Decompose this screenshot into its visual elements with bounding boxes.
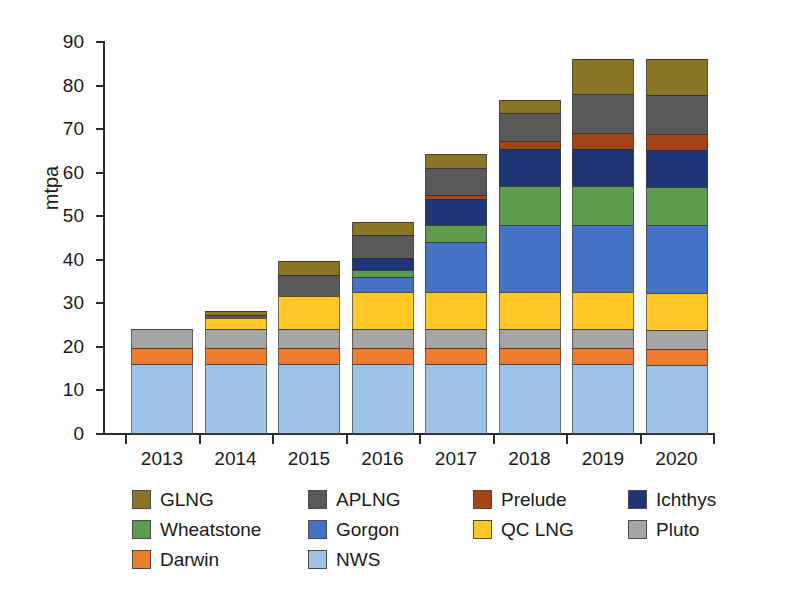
y-tick-20 [96,346,104,348]
legend-swatch-icon [132,550,151,569]
legend-label: NWS [336,550,380,569]
legend-swatch-icon [308,520,327,539]
legend-swatch-icon [628,520,647,539]
bar-segment-2017-wheatstone [425,225,487,242]
legend-swatch-icon [473,490,492,509]
y-tick-0 [96,433,104,435]
bar-2017 [425,42,487,434]
y-tick-label-60: 60 [38,163,84,182]
y-tick-10 [96,389,104,391]
x-tick-label-2020: 2020 [632,448,722,470]
bar-segment-2020-aplng [646,95,708,134]
bar-segment-2018-aplng [499,113,561,140]
bar-segment-2019-pluto [572,329,634,348]
bar-2019 [572,42,634,434]
bar-segment-2019-aplng [572,94,634,133]
legend-swatch-icon [308,490,327,509]
y-tick-label-50: 50 [38,206,84,225]
bar-segment-2018-prelude [499,141,561,149]
bar-segment-2018-glng [499,100,561,114]
legend-item-aplng[interactable]: APLNG [308,490,473,509]
y-tick-50 [96,215,104,217]
y-tick-label-70: 70 [38,119,84,138]
bar-segment-2020-wheatstone [646,187,708,226]
legend-item-glng[interactable]: GLNG [132,490,308,509]
legend-item-darwin[interactable]: Darwin [132,550,308,569]
bar-segment-2013-nws [131,364,193,434]
legend-item-wheatstone[interactable]: Wheatstone [132,520,308,539]
bar-segment-2020-gorgon [646,225,708,293]
y-tick-label-90: 90 [38,32,84,51]
legend-item-prelude[interactable]: Prelude [473,490,628,509]
bar-segment-2016-pluto [352,329,414,348]
legend-item-qc-lng[interactable]: QC LNG [473,520,628,539]
bar-2015 [278,42,340,434]
bar-segment-2016-glng [352,222,414,235]
bar-2016 [352,42,414,434]
bar-segment-2017-prelude [425,195,487,198]
legend-item-nws[interactable]: NWS [308,550,473,569]
chart-legend: GLNGAPLNGPreludeIchthysWheatstoneGorgonQ… [132,484,732,576]
bar-segment-2019-qc-lng [572,292,634,329]
legend-label: Prelude [501,490,567,509]
bar-segment-2014-glng [205,311,267,315]
x-tick-2019 [566,435,568,444]
legend-item-gorgon[interactable]: Gorgon [308,520,473,539]
y-tick-90 [96,41,104,43]
legend-label: Darwin [160,550,219,569]
plot-area [104,42,714,434]
bar-segment-2019-ichthys [572,149,634,186]
bar-segment-2019-nws [572,364,634,434]
y-axis-title: mtpa [41,133,61,243]
bar-segment-2013-pluto [131,329,193,348]
y-tick-label-40: 40 [38,250,84,269]
bar-segment-2016-wheatstone [352,270,414,277]
bar-segment-2016-nws [352,364,414,434]
legend-item-ichthys[interactable]: Ichthys [628,490,748,509]
legend-label: Ichthys [656,490,716,509]
bar-segment-2014-nws [205,364,267,434]
bar-segment-2018-wheatstone [499,186,561,225]
bar-segment-2017-ichthys [425,199,487,225]
bar-segment-2017-gorgon [425,242,487,292]
bar-2013 [131,42,193,434]
bar-segment-2016-gorgon [352,277,414,292]
bar-segment-2019-gorgon [572,225,634,293]
y-tick-40 [96,259,104,261]
bar-segment-2017-nws [425,364,487,434]
bar-segment-2014-darwin [205,348,267,364]
legend-label: GLNG [160,490,214,509]
bar-segment-2015-nws [278,364,340,434]
legend-label: QC LNG [501,520,574,539]
bar-segment-2020-nws [646,365,708,434]
x-tick-2018 [493,435,495,444]
bar-2018 [499,42,561,434]
legend-swatch-icon [308,550,327,569]
x-tick-2013 [125,435,127,444]
y-tick-60 [96,172,104,174]
x-tick-end [713,435,715,444]
bar-segment-2013-darwin [131,348,193,364]
bar-2014 [205,42,267,434]
bar-segment-2018-ichthys [499,149,561,186]
bar-segment-2017-pluto [425,329,487,348]
bar-segment-2018-gorgon [499,225,561,293]
bar-segment-2015-pluto [278,329,340,348]
legend-swatch-icon [473,520,492,539]
bar-segment-2015-aplng [278,275,340,295]
bar-segment-2019-glng [572,59,634,94]
bar-segment-2015-qc-lng [278,296,340,330]
legend-item-pluto[interactable]: Pluto [628,520,748,539]
legend-swatch-icon [132,490,151,509]
legend-label: Gorgon [336,520,399,539]
legend-label: Pluto [656,520,699,539]
bar-segment-2016-aplng [352,235,414,258]
x-tick-2016 [346,435,348,444]
x-tick-2015 [272,435,274,444]
bar-segment-2020-darwin [646,349,708,365]
bar-segment-2017-qc-lng [425,292,487,329]
legend-label: APLNG [336,490,400,509]
bar-segment-2014-pluto [205,329,267,348]
x-tick-2017 [419,435,421,444]
bar-segment-2016-ichthys [352,258,414,269]
